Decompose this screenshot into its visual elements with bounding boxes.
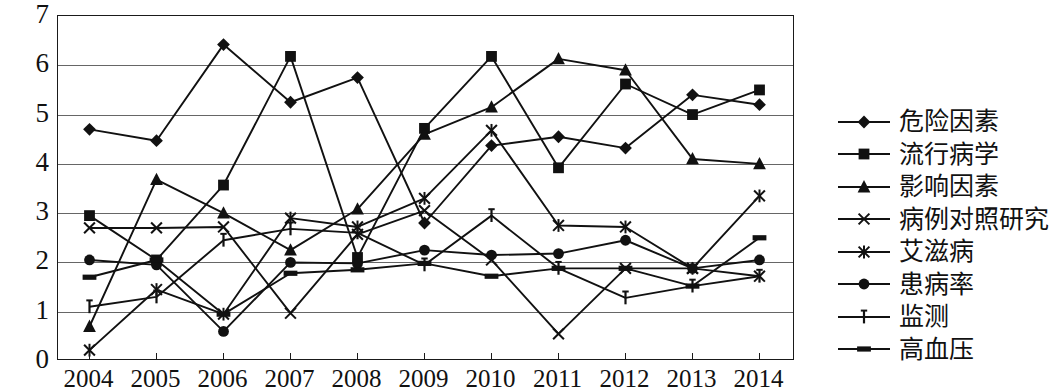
series-square (84, 51, 765, 265)
data-point-triangle (150, 173, 163, 185)
legend-marker-glyph (838, 144, 890, 164)
legend-item-asterisk[interactable]: 艾滋病 (838, 238, 1018, 265)
chart-legend: 危险因素流行病学影响因素病例对照研究艾滋病患病率监测高血压 (838, 108, 1018, 368)
x-axis-tick-mark (424, 353, 425, 360)
legend-marker-glyph (838, 339, 890, 359)
data-point-square (620, 79, 631, 90)
data-point-circle (486, 250, 497, 261)
diamond-icon (838, 112, 890, 132)
legend-marker-glyph (838, 307, 890, 327)
asterisk-icon (838, 242, 890, 262)
legend-label: 患病率 (899, 272, 974, 297)
series-line (90, 56, 760, 260)
data-point-square (486, 51, 497, 62)
legend-label: 艾滋病 (899, 239, 974, 264)
data-point-circle (84, 255, 95, 266)
data-point-bar (686, 283, 700, 288)
data-point-x (859, 214, 870, 225)
x-axis-tick-mark (156, 353, 157, 360)
x-axis-tick-mark (290, 353, 291, 360)
data-point-bar (150, 257, 164, 262)
data-point-triangle (284, 243, 297, 255)
series-layer (58, 16, 795, 361)
data-point-bar (418, 261, 432, 266)
legend-item-circle[interactable]: 患病率 (838, 271, 1018, 298)
data-point-square (754, 85, 765, 96)
bar-icon (838, 339, 890, 359)
data-point-x (553, 328, 564, 339)
legend-marker-glyph (838, 274, 890, 294)
data-point-plus (861, 310, 867, 323)
x-axis-tick-mark (357, 353, 358, 360)
data-point-x (285, 308, 296, 319)
data-point-asterisk (419, 192, 430, 205)
data-point-bar (284, 271, 298, 276)
data-point-triangle (217, 206, 230, 218)
legend-item-bar[interactable]: 高血压 (838, 336, 1018, 363)
data-point-triangle (83, 320, 96, 332)
data-point-triangle (552, 52, 565, 64)
data-point-diamond (552, 130, 565, 143)
data-point-bar (83, 275, 97, 280)
x-axis-tick-mark (491, 353, 492, 360)
data-point-triangle (485, 100, 498, 112)
legend-item-square[interactable]: 流行病学 (838, 141, 1018, 168)
y-axis-tick-label: 6 (5, 50, 49, 77)
data-point-circle (352, 258, 363, 269)
legend-label: 流行病学 (899, 142, 999, 167)
x-axis-tick-label: 2014 (714, 366, 804, 390)
series-triangle (83, 52, 766, 332)
data-point-bar (351, 267, 365, 272)
legend-item-triangle[interactable]: 影响因素 (838, 173, 1018, 200)
data-point-diamond (351, 71, 364, 84)
data-point-bar (485, 274, 499, 279)
data-point-circle (419, 245, 430, 256)
data-point-square (84, 210, 95, 221)
data-point-x (419, 205, 430, 216)
series-line (90, 130, 760, 350)
data-point-diamond (858, 115, 871, 128)
legend-label: 危险因素 (899, 109, 999, 134)
x-axis-tick-mark (625, 353, 626, 360)
data-point-square (553, 162, 564, 173)
data-point-triangle (858, 180, 871, 192)
circle-icon (838, 274, 890, 294)
y-axis-tick-label: 5 (5, 100, 49, 127)
legend-label: 病例对照研究 (899, 207, 1049, 232)
x-axis-tick-mark (692, 353, 693, 360)
legend-item-plus[interactable]: 监测 (838, 303, 1018, 330)
data-point-bar (619, 266, 633, 271)
data-point-diamond (83, 123, 96, 136)
data-point-circle (218, 326, 229, 337)
data-point-circle (620, 235, 631, 246)
data-point-plus (488, 209, 494, 222)
data-point-square (218, 180, 229, 191)
series-asterisk (84, 124, 765, 357)
data-point-circle (754, 255, 765, 266)
data-point-asterisk (84, 344, 95, 357)
plot-area (57, 15, 794, 360)
data-point-diamond (753, 98, 766, 111)
x-axis-tick-mark (759, 353, 760, 360)
data-point-circle (285, 257, 296, 268)
data-point-asterisk (859, 245, 870, 258)
y-axis-tick-label: 3 (5, 198, 49, 225)
data-point-square (859, 149, 870, 160)
legend-item-x[interactable]: 病例对照研究 (838, 206, 1018, 233)
y-axis-tick-label: 0 (5, 346, 49, 373)
legend-item-diamond[interactable]: 危险因素 (838, 108, 1018, 135)
data-point-bar (552, 266, 566, 271)
data-point-diamond (150, 134, 163, 147)
triangle-icon (838, 177, 890, 197)
legend-label: 影响因素 (899, 174, 999, 199)
legend-marker-glyph (838, 242, 890, 262)
x-axis-tick-mark (89, 353, 90, 360)
data-point-circle (859, 279, 870, 290)
data-point-bar (857, 346, 871, 351)
legend-marker-glyph (838, 209, 890, 229)
x-axis-tick-mark (558, 353, 559, 360)
data-point-asterisk (754, 189, 765, 202)
data-point-asterisk (486, 124, 497, 137)
data-point-bar (753, 235, 767, 240)
